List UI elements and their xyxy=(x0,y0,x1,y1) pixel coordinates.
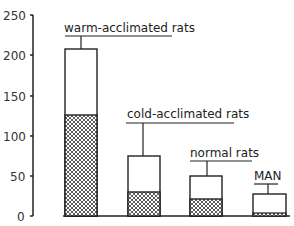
y-tick-label: 50 xyxy=(10,170,25,184)
group-label-cold: cold-acclimated rats xyxy=(127,107,249,121)
bar-lower-hatched xyxy=(253,213,286,216)
y-tick-label: 100 xyxy=(3,130,26,144)
y-tick-label: 200 xyxy=(3,49,26,63)
y-axis: 250 200 150 100 50 0 xyxy=(3,9,33,224)
bar-normal-rats: normal rats xyxy=(190,146,259,216)
group-label-warm: warm-acclimated rats xyxy=(64,21,195,35)
bar-lower-hatched xyxy=(190,199,222,216)
y-tick-label: 150 xyxy=(3,90,26,104)
chart: 250 200 150 100 50 0 warm-acclimated rat… xyxy=(0,0,294,226)
bar-lower-hatched xyxy=(128,192,160,216)
group-label-normal: normal rats xyxy=(190,146,259,160)
y-tick-label: 250 xyxy=(3,9,26,23)
group-label-man: MAN xyxy=(254,169,282,183)
bar-lower-hatched xyxy=(65,115,97,216)
y-tick-label: 0 xyxy=(17,210,25,224)
bar-man: MAN xyxy=(253,169,286,216)
